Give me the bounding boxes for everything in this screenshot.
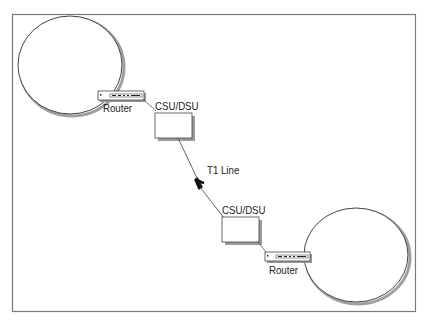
csu-dsu-b-icon [222, 217, 262, 245]
csu-dsu-b-label: CSU/DSU [222, 204, 266, 216]
router-b-label: Router [269, 264, 298, 276]
router-b-icon [265, 252, 312, 263]
network-cloud-b [304, 208, 410, 304]
csu-dsu-a-icon [155, 113, 195, 141]
t1-line [178, 138, 224, 218]
diagram-graphics [0, 0, 426, 322]
router-a-icon [98, 91, 146, 102]
csu-dsu-a-label: CSU/DSU [155, 100, 199, 112]
router-a-label: Router [103, 102, 132, 114]
network-diagram: Router CSU/DSU T1 Line CSU/DSU Router [0, 0, 426, 322]
t1-line-label: T1 Line [207, 164, 239, 176]
